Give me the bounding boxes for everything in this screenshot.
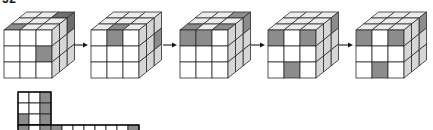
cube-front-cell — [107, 46, 123, 62]
cube-front-cell — [212, 30, 228, 46]
cube-front-cell — [196, 62, 212, 78]
cube-front-cell — [268, 46, 284, 62]
cube-front-cell — [20, 62, 36, 78]
right-arrow-icon — [260, 42, 265, 47]
cube-front-cell — [388, 62, 404, 78]
cube-front-cell — [91, 30, 107, 46]
net-block-cell — [18, 114, 29, 125]
cube-front-cell — [4, 46, 20, 62]
cube-front-cell — [284, 62, 300, 78]
cube-front-cell — [107, 30, 123, 46]
cube-front-cell — [300, 30, 316, 46]
net-strip-cell — [95, 125, 106, 130]
net-block-cell — [29, 92, 40, 103]
net-block-cell — [29, 103, 40, 114]
cube-front-cell — [356, 46, 372, 62]
cube-2 — [91, 12, 162, 78]
net-block-cell — [18, 92, 29, 103]
cube-sequence-canvas — [0, 0, 433, 130]
right-arrow-icon — [83, 42, 88, 47]
cube-5 — [356, 12, 427, 78]
net-block-cell — [18, 103, 29, 114]
cube-front-cell — [123, 30, 139, 46]
cube-front-cell — [180, 62, 196, 78]
cube-front-cell — [123, 46, 139, 62]
figure-root: 52 — [0, 0, 433, 130]
net-strip-cell — [73, 125, 84, 130]
net-block-cell — [40, 114, 51, 125]
cube-net-group — [18, 92, 139, 130]
net-strip-cell — [117, 125, 128, 130]
arrow-3 — [251, 42, 265, 47]
cube-front-cell — [20, 30, 36, 46]
cube-front-cell — [372, 46, 388, 62]
cube-front-cell — [36, 46, 52, 62]
cube-front-cell — [180, 46, 196, 62]
cube-front-cell — [356, 30, 372, 46]
cube-front-cell — [91, 62, 107, 78]
net-strip-cell — [128, 125, 139, 130]
net-block-cell — [29, 114, 40, 125]
cube-front-cell — [4, 30, 20, 46]
cubes-group — [4, 12, 427, 78]
right-arrow-icon — [172, 42, 177, 47]
cube-front-cell — [212, 62, 228, 78]
net-strip-cell — [51, 125, 62, 130]
net-strip-cell — [18, 125, 29, 130]
net-block-cell — [40, 92, 51, 103]
right-arrow-icon — [348, 42, 353, 47]
net-block-cell — [40, 103, 51, 114]
cube-front-cell — [91, 46, 107, 62]
net-strip-cell — [62, 125, 73, 130]
arrow-2 — [163, 42, 177, 47]
cube-front-cell — [268, 30, 284, 46]
cube-front-cell — [196, 46, 212, 62]
cube-front-cell — [372, 30, 388, 46]
cube-front-cell — [300, 62, 316, 78]
cube-front-cell — [123, 62, 139, 78]
net-strip-cell — [84, 125, 95, 130]
cube-1 — [4, 12, 75, 78]
cube-4 — [268, 12, 339, 78]
cube-front-cell — [356, 62, 372, 78]
arrow-4 — [339, 42, 353, 47]
arrow-1 — [74, 42, 88, 47]
cube-front-cell — [388, 46, 404, 62]
net-strip-cell — [106, 125, 117, 130]
cube-front-cell — [20, 46, 36, 62]
cube-front-cell — [36, 62, 52, 78]
cube-front-cell — [36, 30, 52, 46]
net-strip-cell — [40, 125, 51, 130]
cube-front-cell — [196, 30, 212, 46]
net-strip-cell — [29, 125, 40, 130]
cube-front-cell — [284, 46, 300, 62]
cube-front-cell — [4, 62, 20, 78]
cube-front-cell — [372, 62, 388, 78]
cube-front-cell — [300, 46, 316, 62]
cube-front-cell — [107, 62, 123, 78]
cube-front-cell — [212, 46, 228, 62]
cube-front-cell — [268, 62, 284, 78]
cube-front-cell — [388, 30, 404, 46]
cube-front-cell — [284, 30, 300, 46]
cube-3 — [180, 12, 251, 78]
cube-front-cell — [180, 30, 196, 46]
